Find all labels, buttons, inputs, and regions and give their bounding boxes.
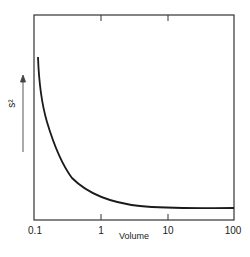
y-axis-label: s² [6, 99, 17, 107]
x-axis-label: Volume [119, 231, 149, 241]
plot-frame [34, 15, 234, 220]
data-curve [38, 57, 234, 208]
x-tick-label-10: 10 [162, 225, 173, 236]
chart-canvas [0, 0, 250, 257]
x-ticks-bottom [101, 214, 168, 220]
x-ticks-top [101, 15, 168, 21]
x-tick-label-100: 100 [225, 225, 242, 236]
x-tick-label-0.1: 0.1 [28, 225, 42, 236]
x-tick-label-1: 1 [98, 225, 104, 236]
y-axis-arrow [21, 75, 26, 152]
